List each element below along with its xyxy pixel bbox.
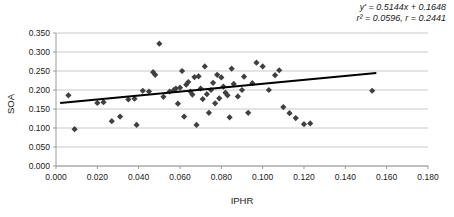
data-point [276,67,282,73]
data-point [206,110,212,116]
x-tick-label: 0.160 [376,172,398,182]
data-point [286,110,292,116]
scatter-chart: y' = 0.5144x + 0.1648 r² = 0.0596, r = 0… [0,0,454,217]
x-tick-label: 0.060 [169,172,191,182]
data-point [301,121,307,127]
x-tick-label: 0.140 [335,172,357,182]
x-tick-label: 0.080 [211,172,233,182]
data-point [241,74,247,80]
y-tick-label: 0.100 [29,123,51,133]
data-point [72,126,78,132]
data-point [94,100,100,106]
data-point [272,72,278,78]
data-point [293,115,299,121]
x-tick-label: 0.040 [128,172,150,182]
data-point [245,110,251,116]
data-point [160,94,166,100]
axis-lines [56,33,428,166]
plot-area: 0.0000.0500.1000.1500.2000.2500.3000.350… [0,0,454,217]
data-point [140,88,146,94]
x-tick-label: 0.180 [417,172,439,182]
data-points [65,41,375,133]
data-point [117,114,123,120]
data-point [202,63,208,69]
y-tick-label: 0.050 [29,142,51,152]
data-point [193,122,199,128]
x-axis-label: IPHR [231,195,254,206]
data-point [212,100,218,106]
data-point [216,95,222,101]
data-point [369,88,375,94]
x-tick-label: 0.100 [252,172,274,182]
y-tick-label: 0.300 [29,47,51,57]
y-tick-label: 0.000 [29,161,51,171]
x-tick-label: 0.020 [87,172,109,182]
data-point [253,60,259,66]
data-point [175,101,181,107]
data-point [239,87,245,93]
x-axis-ticks: 0.0000.0200.0400.0600.0800.1000.1200.140… [45,166,439,182]
y-axis-label: SOA [5,93,16,114]
data-point [235,93,241,99]
data-point [156,41,162,47]
x-tick-label: 0.000 [45,172,67,182]
data-point [200,96,206,102]
data-point [260,63,266,69]
y-tick-label: 0.200 [29,85,51,95]
data-point [181,114,187,120]
data-point [134,122,140,128]
data-point [210,80,216,86]
data-point [65,92,71,98]
data-point [307,120,313,126]
data-point [227,114,233,120]
y-tick-label: 0.250 [29,66,51,76]
data-point [179,68,185,74]
y-tick-label: 0.150 [29,104,51,114]
x-tick-label: 0.120 [293,172,315,182]
data-point [204,91,210,97]
gridlines [56,33,428,166]
data-point [266,87,272,93]
data-point [109,118,115,124]
y-tick-label: 0.350 [29,28,51,38]
y-axis-ticks: 0.0000.0500.1000.1500.2000.2500.3000.350 [29,28,56,171]
data-point [196,73,202,79]
